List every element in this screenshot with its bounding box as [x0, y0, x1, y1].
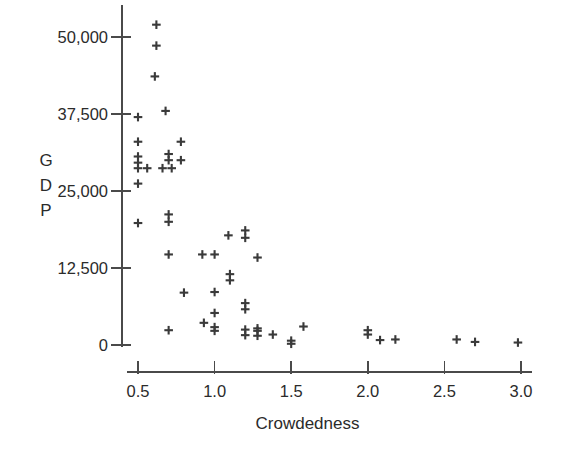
data-point	[200, 319, 209, 328]
data-point	[198, 250, 207, 259]
data-point	[269, 330, 278, 339]
data-point	[134, 113, 143, 122]
data-point	[224, 231, 233, 240]
data-point	[241, 226, 250, 235]
data-point-markers	[134, 20, 523, 348]
data-point	[471, 338, 480, 347]
data-point	[241, 234, 250, 243]
data-point	[376, 336, 385, 345]
data-point	[210, 309, 219, 318]
data-point	[241, 305, 250, 314]
data-point	[164, 326, 173, 335]
data-point	[391, 335, 400, 344]
data-point	[134, 219, 143, 228]
data-point	[167, 164, 176, 173]
data-point	[210, 250, 219, 259]
data-point	[253, 331, 262, 340]
data-point	[152, 20, 161, 29]
data-point	[143, 164, 152, 173]
data-point	[299, 322, 308, 331]
data-point	[134, 179, 143, 188]
data-point	[514, 338, 523, 347]
data-point	[241, 331, 250, 340]
data-point	[253, 253, 262, 262]
data-point	[152, 41, 161, 50]
data-point	[180, 288, 189, 297]
data-point	[452, 335, 461, 344]
data-point	[134, 164, 143, 173]
data-point	[158, 164, 167, 173]
axis-lines	[111, 5, 532, 374]
data-point	[364, 330, 373, 339]
data-point	[177, 156, 186, 165]
scatter-plot-figure: G D P 012,50025,00037,50050,000 0.51.01.…	[0, 0, 565, 455]
data-point	[164, 210, 173, 219]
data-point	[177, 137, 186, 146]
data-point	[210, 288, 219, 297]
data-point	[134, 137, 143, 146]
data-point	[151, 72, 160, 81]
plot-canvas	[0, 0, 565, 455]
data-point	[226, 276, 235, 285]
data-point	[161, 107, 170, 116]
data-point	[164, 156, 173, 165]
data-point	[164, 250, 173, 259]
data-point	[164, 218, 173, 227]
